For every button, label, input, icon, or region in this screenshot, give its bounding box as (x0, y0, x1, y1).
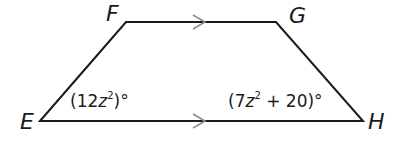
angle-label-e: (12z2)° (70, 93, 129, 110)
angle-label-h: (7z2 + 20)° (228, 93, 323, 110)
trapezoid-diagram: F G E H (12z2)° (7z2 + 20)° (0, 0, 397, 143)
trapezoid-shape (0, 0, 397, 143)
vertex-label-g: G (289, 5, 306, 27)
vertex-label-e: E (20, 111, 34, 133)
vertex-label-f: F (106, 3, 119, 25)
vertex-label-h: H (368, 111, 385, 133)
